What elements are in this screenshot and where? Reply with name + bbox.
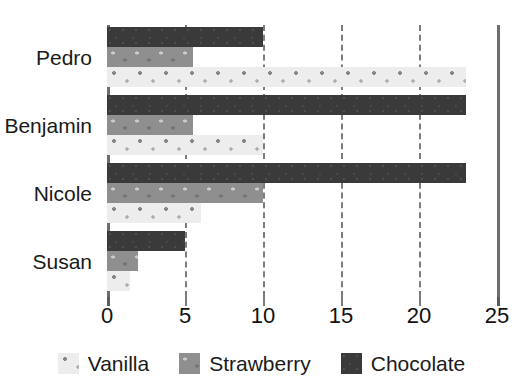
strawberry-swatch: [179, 353, 200, 374]
bar-group: [107, 27, 497, 87]
x-axis-label-10: 10: [251, 304, 275, 328]
chocolate-swatch: [341, 353, 362, 374]
bar-group: [107, 163, 497, 223]
vanilla-swatch: [58, 353, 79, 374]
x-axis-label-15: 15: [329, 304, 353, 328]
bar-nicole-strawberry: [107, 183, 263, 203]
x-axis-label-5: 5: [179, 304, 191, 328]
x-axis-label-25: 25: [485, 304, 509, 328]
bar-groups: [107, 25, 497, 297]
category-axis-labels: PedroBenjaminNicoleSusan: [0, 25, 100, 297]
plot-area: [107, 25, 497, 297]
bar-chart: PedroBenjaminNicoleSusan 0510152025 Vani…: [0, 0, 523, 388]
legend-item-strawberry[interactable]: Strawberry: [179, 353, 311, 374]
bar-pedro-strawberry: [107, 47, 193, 67]
category-label-pedro: Pedro: [36, 47, 92, 68]
legend-label-vanilla: Vanilla: [88, 353, 149, 374]
bar-pedro-chocolate: [107, 27, 263, 47]
bar-group: [107, 95, 497, 155]
bar-nicole-vanilla: [107, 203, 201, 223]
bar-pedro-vanilla: [107, 67, 466, 87]
bar-benjamin-vanilla: [107, 135, 263, 155]
legend-label-strawberry: Strawberry: [209, 353, 311, 374]
bar-nicole-chocolate: [107, 163, 466, 183]
chart-legend: VanillaStrawberryChocolate: [0, 345, 523, 381]
bar-susan-vanilla: [107, 271, 130, 291]
category-label-susan: Susan: [32, 251, 92, 272]
bar-benjamin-chocolate: [107, 95, 466, 115]
legend-item-vanilla[interactable]: Vanilla: [58, 353, 149, 374]
bar-susan-strawberry: [107, 251, 138, 271]
bar-benjamin-strawberry: [107, 115, 193, 135]
legend-item-chocolate[interactable]: Chocolate: [341, 353, 466, 374]
bar-susan-chocolate: [107, 231, 185, 251]
category-label-benjamin: Benjamin: [4, 115, 92, 136]
x-axis-tick-labels: 0510152025: [107, 304, 497, 330]
bar-group: [107, 231, 497, 291]
category-label-nicole: Nicole: [34, 183, 92, 204]
legend-label-chocolate: Chocolate: [371, 353, 466, 374]
x-axis-label-20: 20: [407, 304, 431, 328]
x-axis-label-0: 0: [101, 304, 113, 328]
grid-line-25: [497, 25, 500, 297]
